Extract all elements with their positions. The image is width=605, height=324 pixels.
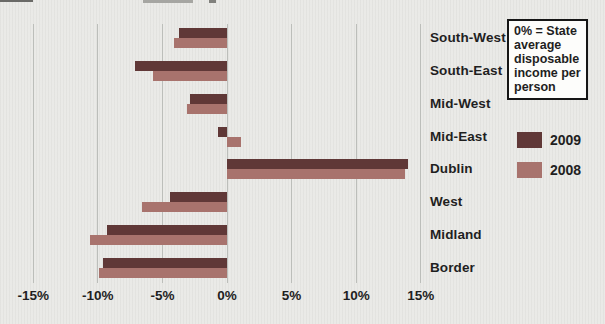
category-label-west: West bbox=[430, 194, 520, 210]
category-label-dublin: Dublin bbox=[430, 161, 520, 177]
bar-2008-dublin bbox=[227, 169, 405, 179]
bar-2009-mid-east bbox=[218, 127, 227, 137]
x-axis-tick-label: -15% bbox=[17, 288, 49, 303]
legend-year-label: 2008 bbox=[550, 162, 581, 178]
x-axis-tick-label: 0% bbox=[217, 288, 237, 303]
x-axis-tick-label: 15% bbox=[407, 288, 434, 303]
legend-entry-2009: 2009 bbox=[517, 132, 581, 148]
bar-2009-mid-west bbox=[190, 94, 227, 104]
category-label-mid-east: Mid-East bbox=[430, 129, 520, 145]
bar-2009-south-east bbox=[135, 61, 227, 71]
gridline bbox=[356, 24, 357, 283]
gridline bbox=[291, 24, 292, 283]
x-axis-tick-label: 10% bbox=[343, 288, 370, 303]
bar-2009-border bbox=[103, 258, 227, 268]
legend-entry-2008: 2008 bbox=[517, 162, 581, 178]
legend-year-label: 2009 bbox=[550, 132, 581, 148]
x-axis-tick-label: -10% bbox=[82, 288, 114, 303]
chart-screenshot: -15%-10%-5%0%5%10%15%South-WestSouth-Eas… bbox=[0, 0, 605, 324]
annotation-text: 0% = State average disposable income per… bbox=[514, 24, 581, 94]
scan-artifact-line bbox=[0, 0, 33, 2]
bar-2009-midland bbox=[107, 225, 227, 235]
scan-artifact-dash bbox=[143, 0, 193, 3]
bar-2008-mid-east bbox=[227, 137, 241, 147]
gridline bbox=[33, 24, 34, 283]
annotation-box: 0% = State average disposable income per… bbox=[507, 19, 588, 100]
bar-2008-south-west bbox=[174, 38, 227, 48]
bar-2009-west bbox=[170, 192, 227, 202]
bar-2008-south-east bbox=[153, 71, 227, 81]
x-axis-tick-label: -5% bbox=[150, 288, 174, 303]
bar-2009-dublin bbox=[227, 159, 408, 169]
bar-2008-midland bbox=[90, 235, 227, 245]
x-axis-tick-label: 5% bbox=[282, 288, 302, 303]
category-label-midland: Midland bbox=[430, 227, 520, 243]
gridline bbox=[420, 24, 421, 283]
bar-2008-mid-west bbox=[187, 104, 227, 114]
bar-2008-border bbox=[99, 268, 227, 278]
legend-swatch bbox=[517, 162, 542, 178]
category-label-border: Border bbox=[430, 260, 520, 276]
bar-2008-west bbox=[142, 202, 227, 212]
scan-artifact-dot bbox=[209, 0, 216, 3]
bar-2009-south-west bbox=[179, 28, 227, 38]
legend-swatch bbox=[517, 132, 542, 148]
